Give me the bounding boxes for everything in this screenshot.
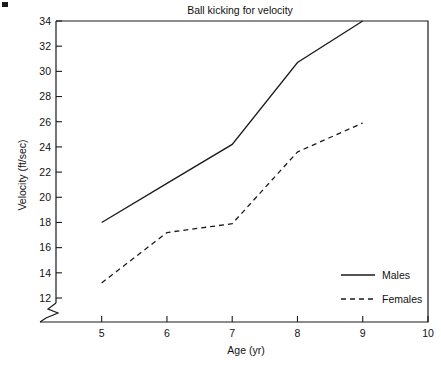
y-tick-label-22: 22 [39, 166, 51, 178]
y-axis-title: Velocity (ft/sec) [16, 139, 28, 210]
y-tick-label-32: 32 [39, 40, 51, 52]
x-tick-label-7: 7 [229, 327, 235, 339]
x-axis: 5678910 [99, 316, 434, 339]
series-line-females [102, 123, 363, 283]
y-tick-label-18: 18 [39, 216, 51, 228]
y-tick-label-28: 28 [39, 90, 51, 102]
y-tick-label-34: 34 [39, 15, 51, 27]
x-axis-title: Age (yr) [227, 344, 264, 356]
y-tick-label-24: 24 [39, 141, 51, 153]
data-series-group [102, 21, 363, 283]
x-tick-label-8: 8 [295, 327, 301, 339]
x-tick-label-10: 10 [422, 327, 434, 339]
y-tick-label-26: 26 [39, 116, 51, 128]
chart-legend: MalesFemales [341, 269, 422, 305]
legend-label-females: Females [382, 293, 422, 305]
legend-label-males: Males [382, 269, 410, 281]
chart-title: Ball kicking for velocity [187, 4, 293, 16]
y-tick-label-16: 16 [39, 241, 51, 253]
y-axis: 121416182022242628303234 [39, 15, 62, 304]
axis-frame [40, 21, 428, 322]
y-tick-label-20: 20 [39, 191, 51, 203]
line-chart: Ball kicking for velocity 12141618202224… [0, 0, 441, 368]
y-tick-label-12: 12 [39, 292, 51, 304]
x-tick-label-5: 5 [99, 327, 105, 339]
chart-figure: Ball kicking for velocity 12141618202224… [0, 0, 441, 368]
x-tick-label-6: 6 [164, 327, 170, 339]
y-tick-label-14: 14 [39, 267, 51, 279]
y-tick-label-30: 30 [39, 65, 51, 77]
x-tick-label-9: 9 [360, 327, 366, 339]
series-line-males [102, 21, 363, 222]
